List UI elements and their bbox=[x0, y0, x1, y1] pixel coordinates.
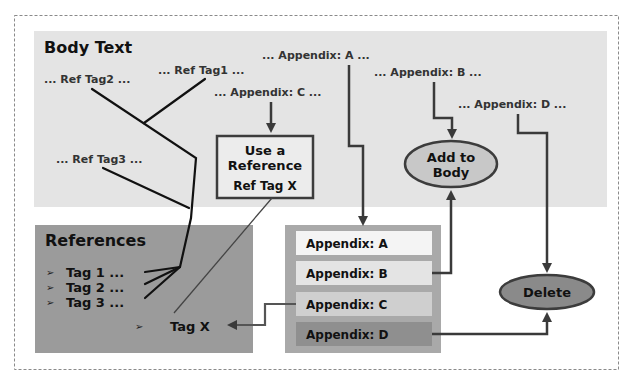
reference-item-tag3[interactable]: Tag 3 ... bbox=[66, 295, 124, 310]
add-to-body-node[interactable]: Add to Body bbox=[405, 141, 497, 187]
diagram-svg: Body Text ... Ref Tag2 ... ... Ref Tag1 … bbox=[0, 0, 630, 381]
add-to-body-line1: Add to bbox=[427, 150, 475, 165]
body-text-title: Body Text bbox=[44, 38, 133, 57]
reference-item-tag2[interactable]: Tag 2 ... bbox=[66, 280, 124, 295]
references-title: References bbox=[45, 231, 146, 250]
appendix-row-d-label: Appendix: D bbox=[306, 328, 389, 342]
use-reference-line1: Use a bbox=[245, 143, 285, 158]
snippet-appendix-a[interactable]: ... Appendix: A ... bbox=[262, 49, 370, 62]
snippet-appendix-d[interactable]: ... Appendix: D ... bbox=[458, 98, 566, 111]
snippet-ref-tag3[interactable]: ... Ref Tag3 ... bbox=[56, 153, 142, 166]
appendix-row-b-label: Appendix: B bbox=[306, 267, 388, 281]
snippet-ref-tag2[interactable]: ... Ref Tag2 ... bbox=[44, 73, 130, 86]
use-reference-line2: Reference bbox=[228, 158, 302, 173]
bullet-icon: ➢ bbox=[46, 267, 54, 278]
snippet-ref-tag1[interactable]: ... Ref Tag1 ... bbox=[158, 64, 244, 77]
delete-label: Delete bbox=[523, 285, 571, 300]
appendix-row-c-label: Appendix: C bbox=[306, 298, 388, 312]
use-reference-node[interactable]: Use a Reference Ref Tag X bbox=[217, 136, 313, 198]
delete-node[interactable]: Delete bbox=[500, 275, 594, 309]
add-to-body-line2: Body bbox=[433, 165, 470, 180]
diagram-canvas: Body Text ... Ref Tag2 ... ... Ref Tag1 … bbox=[0, 0, 630, 381]
bullet-icon: ➢ bbox=[46, 297, 54, 308]
snippet-appendix-c[interactable]: ... Appendix: C ... bbox=[214, 86, 321, 99]
bullet-icon: ➢ bbox=[46, 282, 54, 293]
snippet-appendix-b[interactable]: ... Appendix: B ... bbox=[374, 66, 482, 79]
reference-item-tag-x[interactable]: Tag X bbox=[170, 319, 210, 334]
bullet-icon: ➢ bbox=[135, 321, 143, 332]
use-reference-line3: Ref Tag X bbox=[233, 179, 297, 193]
appendix-row-a-label: Appendix: A bbox=[306, 237, 389, 251]
reference-item-tag1[interactable]: Tag 1 ... bbox=[66, 265, 124, 280]
